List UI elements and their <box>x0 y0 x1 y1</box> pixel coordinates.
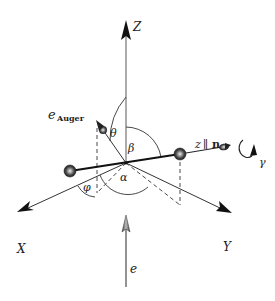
beam-label: e <box>130 262 137 276</box>
auger-label-e: e <box>48 107 56 122</box>
molecule-axis-label-parallel: ∥ <box>203 138 208 151</box>
auger-label-sub: Auger <box>56 113 85 123</box>
atom-left <box>64 165 76 177</box>
z-axis-label: Z <box>132 20 142 34</box>
rotation-gamma-label: γ <box>259 156 266 169</box>
electron-beam <box>122 215 130 287</box>
beta-label: β <box>127 142 134 155</box>
geometry-diagram: Z X Y e Auger θ β α φ z ∥ n γ e <box>0 0 275 301</box>
molecule-axis-label-n: n <box>212 138 220 151</box>
y-axis <box>126 163 232 213</box>
x-axis-label: X <box>16 242 26 256</box>
origin-point <box>125 162 128 165</box>
y-axis-label: Y <box>223 240 232 254</box>
phi-label: φ <box>83 181 91 194</box>
diagram-canvas: Z X Y e Auger θ β α φ z ∥ n γ e <box>0 0 275 301</box>
rotation-gamma-icon <box>239 140 257 157</box>
theta-label: θ <box>110 127 117 140</box>
molecule-axis-label-z: z <box>194 138 201 151</box>
alpha-label: α <box>120 171 128 184</box>
atom-right <box>174 148 186 160</box>
